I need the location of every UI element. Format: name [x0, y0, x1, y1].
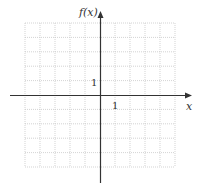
y-axis-label: f(x): [78, 6, 98, 19]
coordinate-plane: f(x) x 1 1: [0, 0, 201, 187]
y-axis-arrow-icon: [98, 11, 104, 18]
x-axis-label: x: [186, 100, 193, 113]
x-axis-arrow-icon: [185, 93, 192, 99]
y-tick-label-1: 1: [91, 77, 97, 88]
x-tick-label-1: 1: [112, 100, 118, 111]
